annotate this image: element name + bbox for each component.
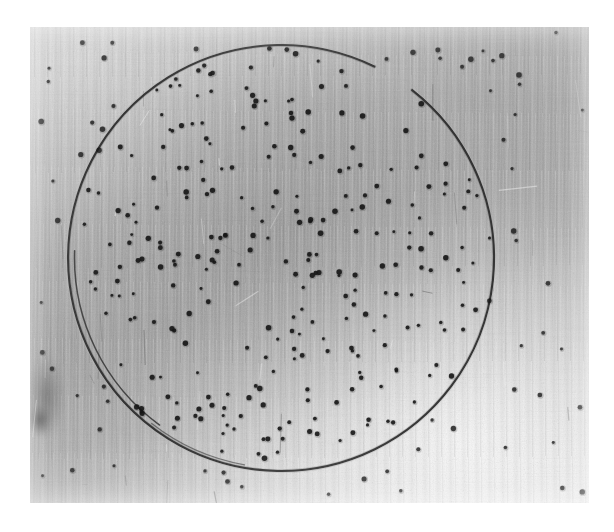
punched-dot — [155, 206, 159, 210]
punched-dot — [305, 387, 309, 391]
punched-dot — [318, 230, 324, 236]
punched-dot — [375, 231, 379, 235]
punched-dot — [410, 293, 413, 296]
punched-dot — [246, 395, 251, 400]
punched-dot — [311, 320, 315, 324]
punched-dot — [50, 366, 54, 370]
surface-scratch — [202, 219, 204, 244]
punched-dot — [196, 371, 199, 374]
punched-dot — [264, 355, 268, 359]
punched-dot — [222, 471, 226, 475]
punched-dot — [209, 89, 213, 93]
punched-dot — [580, 489, 585, 494]
punched-dot — [358, 371, 361, 374]
punched-dot — [514, 113, 517, 116]
punched-dot — [293, 51, 299, 57]
surface-scratch — [504, 362, 505, 386]
scribe-overshoot-tail — [152, 423, 245, 464]
punched-dot — [429, 231, 433, 235]
punched-dot — [196, 407, 201, 412]
punched-dot — [200, 287, 203, 290]
punched-dot — [272, 370, 275, 373]
punched-dot — [115, 279, 120, 284]
surface-scratch — [167, 480, 168, 503]
punched-dot — [289, 111, 294, 116]
punched-dot — [187, 311, 192, 316]
punched-dot — [118, 295, 121, 298]
punched-dot — [326, 349, 330, 353]
punched-dot — [94, 287, 97, 290]
punched-dot — [349, 346, 354, 351]
punched-dot — [288, 145, 293, 150]
punched-dot — [578, 405, 583, 410]
punched-dot — [240, 196, 243, 199]
scribe-overshoot-arc — [75, 251, 160, 425]
surface-scratch — [568, 407, 569, 420]
punched-dot — [345, 317, 348, 320]
punched-dot — [140, 411, 145, 416]
punched-dot — [175, 401, 178, 404]
punched-dot — [461, 303, 465, 307]
punched-dot — [93, 270, 98, 275]
punched-dot — [380, 263, 385, 268]
punched-dot — [374, 184, 379, 189]
punched-dot — [276, 451, 279, 454]
punched-dot — [344, 84, 348, 88]
punched-dot — [241, 126, 245, 130]
punched-dot — [339, 110, 344, 115]
punched-dot — [40, 350, 45, 355]
punched-dot — [130, 154, 133, 157]
punched-dot — [253, 98, 258, 103]
punched-dot — [306, 398, 310, 402]
punched-dot — [205, 192, 209, 196]
punched-dot — [100, 127, 105, 132]
punched-dot — [300, 353, 305, 358]
punched-dot — [428, 374, 431, 377]
punched-dot — [118, 145, 123, 150]
punched-dot — [135, 221, 138, 224]
punched-dot — [317, 60, 320, 63]
punched-dot — [511, 228, 516, 233]
punched-dot — [354, 229, 359, 234]
surface-scratch — [357, 489, 359, 503]
punched-dot — [174, 77, 178, 81]
surface-scratch — [578, 130, 589, 136]
surface-scratch — [324, 342, 325, 366]
punched-dot — [177, 166, 181, 170]
punched-dot — [127, 240, 131, 244]
punched-dot — [287, 99, 290, 102]
punched-dot — [183, 340, 188, 345]
punched-dot — [426, 184, 431, 189]
punched-dot — [360, 204, 365, 209]
surface-scratch — [454, 193, 456, 225]
punched-dot — [230, 165, 234, 169]
scribed-circle-group — [66, 43, 495, 472]
punched-dot — [362, 476, 367, 481]
punched-dot — [183, 189, 188, 194]
surface-scratch — [274, 56, 275, 67]
punched-dot — [294, 209, 299, 214]
punched-dot — [151, 176, 156, 181]
punched-dot-group — [38, 30, 586, 497]
punched-dot — [339, 439, 342, 442]
punched-dot — [430, 418, 433, 421]
punched-dot — [179, 123, 184, 128]
surface-scratch — [270, 208, 281, 229]
surface-scratch — [61, 225, 63, 259]
punched-dot — [210, 71, 215, 76]
punched-dot — [266, 325, 272, 331]
punched-dot — [514, 239, 517, 242]
punched-dot — [504, 446, 507, 449]
punched-dot — [55, 218, 60, 223]
punched-dot — [111, 104, 115, 108]
punched-dot — [518, 83, 521, 86]
punched-dot — [200, 121, 203, 124]
punched-dot — [392, 230, 395, 233]
punched-dot — [385, 469, 389, 473]
punched-dot — [308, 219, 312, 223]
punched-dot — [319, 84, 324, 89]
punched-dot — [129, 318, 133, 322]
punched-dot — [418, 246, 424, 252]
punched-dot — [292, 347, 296, 351]
punched-dot — [287, 420, 291, 424]
